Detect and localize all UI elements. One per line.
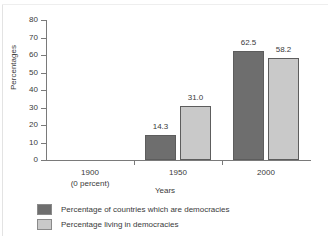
y-tick-mark	[41, 108, 46, 109]
plot-area: 01020304050607080 14.331.062.558.2	[46, 20, 310, 160]
y-tick-label: 30	[29, 104, 38, 112]
y-tick-label: 0	[34, 156, 38, 164]
x-axis-title: Years	[0, 186, 330, 195]
y-tick-label: 60	[29, 51, 38, 59]
y-tick-mark	[41, 160, 46, 161]
x-tick-label-2000: 2000	[257, 168, 275, 179]
y-tick-mark	[41, 143, 46, 144]
y-tick-mark	[41, 73, 46, 74]
y-tick-label: 40	[29, 86, 38, 94]
legend-label: Percentage living in democracies	[61, 221, 178, 229]
bar-2000-series-1	[233, 51, 264, 160]
y-tick-label: 70	[29, 34, 38, 42]
chart-legend: Percentage of countries which are democr…	[37, 202, 230, 232]
legend-item: Percentage living in democracies	[37, 217, 230, 232]
y-axis-line	[46, 20, 47, 161]
x-tick-label-text: 2000	[257, 168, 275, 179]
bar-2000-series-2	[268, 58, 299, 160]
bar-value-label: 14.3	[153, 123, 169, 131]
x-tick-label-text: 1900	[71, 168, 110, 179]
y-tick-mark	[41, 125, 46, 126]
legend-swatch-icon	[37, 219, 52, 230]
page-edge-left	[2, 4, 3, 236]
y-axis-title: Percentages	[9, 45, 18, 90]
chart-figure: Percentages 01020304050607080 14.331.062…	[0, 0, 330, 240]
bar-value-label: 58.2	[276, 46, 292, 54]
y-tick-mark	[41, 90, 46, 91]
y-tick-label: 80	[29, 16, 38, 24]
y-tick-label: 50	[29, 69, 38, 77]
page-edge-top	[2, 4, 328, 5]
y-tick-mark	[41, 20, 46, 21]
x-group-tick	[222, 161, 223, 165]
legend-label: Percentage of countries which are democr…	[61, 206, 230, 214]
y-tick-mark	[41, 38, 46, 39]
x-group-tick	[134, 161, 135, 165]
y-tick-label: 10	[29, 139, 38, 147]
bar-value-label: 31.0	[188, 94, 204, 102]
bar-1950-series-1	[145, 135, 176, 160]
y-tick-label: 20	[29, 121, 38, 129]
x-tick-label-text: 1950	[169, 168, 187, 179]
x-axis-line	[46, 160, 311, 161]
legend-swatch-icon	[37, 204, 52, 215]
y-tick-mark	[41, 55, 46, 56]
bar-1950-series-2	[180, 106, 211, 160]
legend-item: Percentage of countries which are democr…	[37, 202, 230, 217]
bar-value-label: 62.5	[241, 39, 257, 47]
x-tick-label-1950: 1950	[169, 168, 187, 179]
